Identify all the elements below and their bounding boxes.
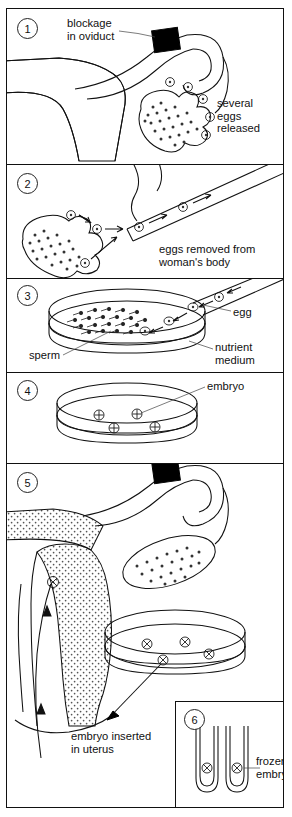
- petri-dish-5: [105, 610, 245, 674]
- leader-embryo: [141, 387, 205, 413]
- ovary-5: [116, 525, 222, 598]
- ovary-1: [139, 90, 211, 152]
- label-several-eggs-released: several eggs released: [217, 97, 260, 135]
- label-blockage-in-oviduct: blockage in oviduct: [67, 17, 114, 42]
- panel-2-number: 2: [17, 173, 38, 194]
- panel-4: 4 embryo: [7, 373, 283, 463]
- insertion-arrow: [107, 664, 161, 720]
- blockage-marker: [152, 27, 181, 52]
- label-embryo: embryo: [207, 380, 244, 393]
- panel-2: 2 eggs removed from woman's body: [7, 165, 283, 278]
- ivf-diagram: 1 blockage in oviduct several eggs relea…: [0, 0, 292, 817]
- panel-5: 5 embryo inserted in uterus: [7, 464, 283, 808]
- uterus-5: [37, 544, 112, 726]
- panel-1-art: [7, 9, 283, 164]
- panel-6: 6 frozen embryo: [175, 701, 283, 808]
- petri-dish-3: [49, 289, 205, 353]
- eggs-3: [140, 293, 223, 335]
- label-sperm: sperm: [29, 349, 60, 362]
- panel-3: 3 egg sperm nutrient medium: [7, 279, 283, 372]
- ovary-2: [22, 215, 102, 277]
- leader-egg: [203, 305, 231, 311]
- label-frozen-embryo: frozen embryo: [256, 755, 283, 780]
- panel-6-number: 6: [184, 709, 205, 730]
- panel-5-number: 5: [17, 472, 38, 493]
- panel-1-number: 1: [17, 18, 38, 39]
- label-embryo-inserted: embryo inserted in uterus: [71, 730, 151, 755]
- panel-3-number: 3: [17, 285, 38, 306]
- label-eggs-removed: eggs removed from woman's body: [159, 243, 255, 268]
- leader-blockage: [119, 31, 155, 37]
- label-egg: egg: [233, 306, 252, 319]
- panel-1: 1 blockage in oviduct several eggs relea…: [7, 9, 283, 164]
- leader-nutrient: [189, 341, 213, 349]
- blockage-marker-5: [152, 464, 181, 484]
- label-nutrient-medium: nutrient medium: [215, 341, 255, 366]
- embryos-4: [94, 409, 160, 433]
- sperm-cluster: [67, 307, 147, 334]
- panel-4-number: 4: [17, 380, 38, 401]
- embryos-5: [142, 637, 214, 665]
- petri-dish-4: [57, 383, 197, 443]
- diagram-frame: 1 blockage in oviduct several eggs relea…: [6, 8, 284, 808]
